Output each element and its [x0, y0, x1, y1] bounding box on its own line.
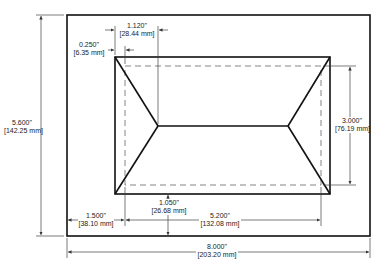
- label-overall-width: 8.000" [203.20 mm]: [196, 243, 238, 259]
- label-wall-offset: 0.250" [6.35 mm]: [72, 41, 106, 57]
- label-pocket-width: 5.200" [132.08 mm]: [199, 212, 241, 228]
- mm-value: [6.35 mm]: [72, 49, 106, 57]
- label-overall-height: 5.600" [142.25 mm]: [4, 119, 40, 135]
- inch-value: 1.050": [150, 199, 188, 207]
- label-bottom-offset: 1.050" [26.68 mm]: [150, 199, 188, 215]
- inch-value: 5.200": [199, 212, 241, 220]
- label-chamfer-width: 1.120" [28.44 mm]: [118, 22, 156, 38]
- mm-value: [76.19 mm]: [335, 125, 369, 133]
- inch-value: 3.000": [335, 117, 369, 125]
- drawing-canvas: [0, 0, 389, 274]
- inch-value: 1.120": [118, 22, 156, 30]
- mm-value: [203.20 mm]: [196, 251, 238, 259]
- inch-value: 8.000": [196, 243, 238, 251]
- inch-value: 1.500": [78, 212, 114, 220]
- chamfer-lines: [115, 57, 330, 194]
- inch-value: 5.600": [4, 119, 40, 127]
- label-left-offset: 1.500" [38.10 mm]: [78, 212, 114, 228]
- inch-value: 0.250": [72, 41, 106, 49]
- mm-value: [132.08 mm]: [199, 220, 241, 228]
- mm-value: [28.44 mm]: [118, 30, 156, 38]
- label-pocket-height: 3.000" [76.19 mm]: [335, 117, 369, 133]
- mm-value: [26.68 mm]: [150, 207, 188, 215]
- mm-value: [142.25 mm]: [4, 127, 40, 135]
- mm-value: [38.10 mm]: [78, 220, 114, 228]
